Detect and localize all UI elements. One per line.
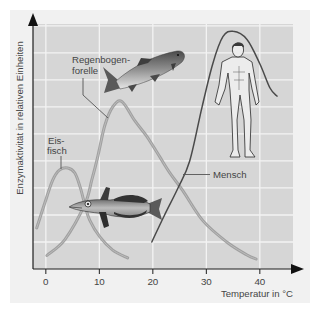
label-trout-line1: Regenbogen- bbox=[72, 54, 130, 65]
y-axis-title: Enzymaktivität in relativen Einheiten bbox=[14, 41, 25, 195]
x-axis-title: Temperatur in °C bbox=[221, 288, 293, 299]
x-tick-label: 40 bbox=[254, 276, 265, 287]
x-tick-label: 10 bbox=[94, 276, 105, 287]
x-tick-label: 30 bbox=[201, 276, 212, 287]
label-human: Mensch bbox=[213, 169, 247, 180]
x-tick-label: 0 bbox=[43, 276, 49, 287]
label-trout-line2: forelle bbox=[72, 65, 98, 76]
x-tick-label: 20 bbox=[147, 276, 158, 287]
enzyme-activity-chart: Regenbogen- forelle Eis- fisch Mensch 01… bbox=[0, 0, 316, 311]
label-icefish-line2: fisch bbox=[47, 145, 67, 156]
